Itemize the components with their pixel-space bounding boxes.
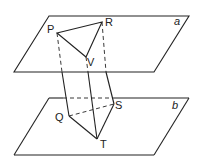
- segment-q-s: [69, 104, 114, 116]
- label-q: Q: [55, 111, 64, 123]
- line-p-q-dashed: [57, 33, 62, 72]
- segment-q-t: [69, 116, 97, 139]
- triangle-prv: [57, 22, 102, 57]
- line-r-s: [106, 72, 114, 104]
- line-v-t: [88, 72, 97, 139]
- plane-a-label: a: [174, 15, 180, 27]
- label-p: P: [47, 23, 54, 35]
- segment-t-s: [97, 104, 114, 139]
- label-v: V: [87, 56, 95, 68]
- plane-b-label: b: [172, 99, 178, 111]
- diagram-canvas: a b P R V Q S T: [0, 0, 202, 167]
- line-p-q: [62, 72, 69, 116]
- label-t: T: [100, 138, 107, 150]
- plane-b-left-edge: [14, 98, 49, 155]
- label-s: S: [115, 99, 122, 111]
- label-r: R: [105, 16, 113, 28]
- line-r-s-dashed: [102, 22, 106, 72]
